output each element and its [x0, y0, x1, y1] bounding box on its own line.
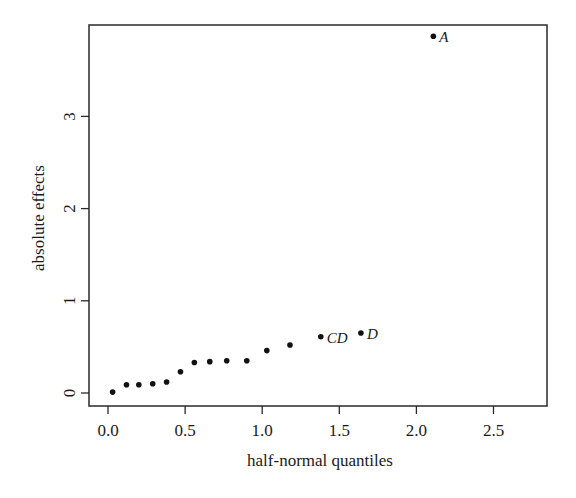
x-tick-label: 2.5 — [483, 421, 504, 440]
x-axis-title: half-normal quantiles — [247, 451, 393, 470]
data-points: CDDA — [110, 29, 450, 395]
y-tick-label: 2 — [60, 204, 79, 213]
y-tick-label: 1 — [60, 297, 79, 306]
point-label: D — [366, 326, 378, 342]
data-point — [244, 358, 250, 364]
data-point — [150, 381, 156, 387]
data-point — [178, 369, 184, 375]
data-point — [287, 342, 293, 348]
data-point — [164, 379, 170, 385]
x-axis: 0.00.51.01.52.02.5 — [97, 406, 504, 440]
point-label: A — [438, 29, 449, 45]
data-point — [192, 360, 198, 366]
point-label: CD — [327, 330, 348, 346]
data-point — [110, 389, 116, 395]
x-tick-label: 1.5 — [329, 421, 350, 440]
y-axis-title: absolute effects — [29, 165, 48, 271]
data-point — [224, 358, 230, 364]
data-point — [358, 330, 364, 336]
data-point — [431, 33, 437, 39]
data-point — [207, 359, 213, 365]
y-tick-label: 0 — [60, 389, 79, 398]
y-axis: 0123 — [60, 112, 89, 397]
half-normal-plot: 0.00.51.01.52.02.5 0123 CDDA half-normal… — [0, 0, 576, 498]
y-tick-label: 3 — [60, 112, 79, 121]
data-point — [136, 382, 142, 388]
data-point — [124, 382, 130, 388]
x-tick-label: 2.0 — [406, 421, 427, 440]
x-tick-label: 0.5 — [174, 421, 195, 440]
data-point — [264, 348, 270, 354]
data-point — [318, 334, 324, 340]
x-tick-label: 1.0 — [252, 421, 273, 440]
x-tick-label: 0.0 — [97, 421, 118, 440]
plot-frame — [89, 25, 547, 406]
